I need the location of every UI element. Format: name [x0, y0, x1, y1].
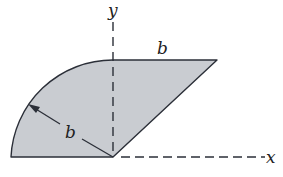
y-axis-label: y	[107, 0, 118, 20]
figure-canvas: y x b b	[0, 0, 283, 177]
x-axis-label: x	[266, 147, 276, 167]
shaded-area	[11, 60, 217, 157]
area-diagram: y x b b	[0, 0, 283, 177]
top-length-label: b	[157, 38, 168, 58]
radius-label: b	[65, 122, 76, 142]
